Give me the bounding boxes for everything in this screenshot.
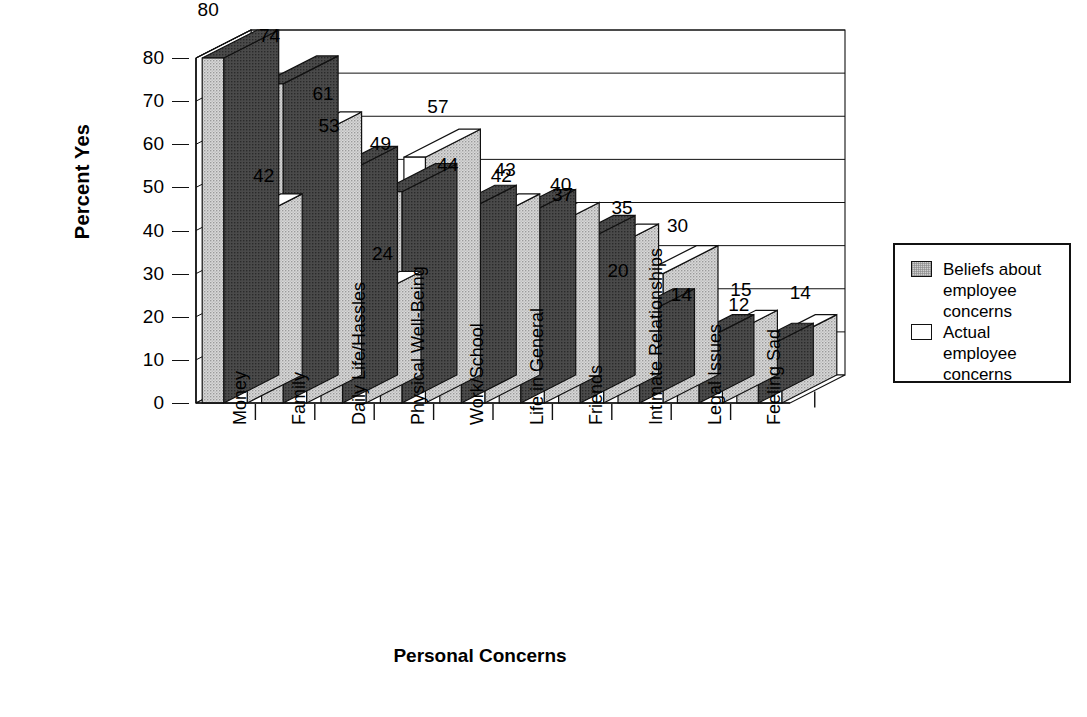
x-category-label: Feeling Sad: [765, 329, 783, 425]
chart-legend: Beliefs about employee concerns Actual e…: [893, 243, 1071, 383]
x-category-label: Work/School: [468, 323, 486, 425]
value-label-beliefs: 43: [485, 160, 525, 179]
value-label-actual: 14: [780, 283, 820, 302]
value-label-beliefs: 74: [250, 26, 290, 45]
legend-label-actual-line1: Actual: [943, 323, 990, 342]
legend-label-actual: Actual employee concerns: [943, 322, 1017, 385]
value-label-actual: 30: [658, 216, 698, 235]
y-tick-mark: [172, 58, 189, 59]
legend-label-actual-line3: concerns: [943, 365, 1012, 384]
x-category-label: Daily Life/Hassles: [350, 282, 368, 425]
x-category-label: Family: [290, 372, 308, 425]
y-tick-label: 10: [118, 350, 164, 369]
bar-beliefs: [202, 30, 279, 403]
y-tick-mark: [172, 403, 189, 404]
value-label-beliefs: 80: [188, 0, 228, 19]
y-tick-mark: [172, 144, 189, 145]
x-category-label: Life in General: [528, 308, 546, 425]
x-category-label: Legal Issues: [706, 324, 724, 425]
y-tick-label: 30: [118, 264, 164, 283]
legend-label-beliefs-line3: concerns: [943, 302, 1012, 321]
legend-label-actual-line2: employee: [943, 344, 1017, 363]
legend-label-beliefs: Beliefs about employee concerns: [943, 259, 1041, 322]
y-tick-label: 60: [118, 134, 164, 153]
y-tick-mark: [172, 187, 189, 188]
value-label-actual: 24: [363, 244, 403, 263]
legend-swatch-actual-icon: [911, 324, 932, 340]
value-label-beliefs: 44: [428, 155, 468, 174]
y-tick-label: 40: [118, 221, 164, 240]
value-label-beliefs: 49: [360, 134, 400, 153]
legend-item-actual[interactable]: Actual employee concerns: [911, 322, 1017, 385]
y-tick-mark: [172, 274, 189, 275]
y-tick-mark: [172, 101, 189, 102]
y-tick-label: 50: [118, 177, 164, 196]
legend-label-beliefs-line1: Beliefs about: [943, 260, 1041, 279]
x-category-label: Intimate Relationships: [647, 248, 665, 425]
value-label-actual: 42: [244, 166, 284, 185]
legend-item-beliefs[interactable]: Beliefs about employee concerns: [911, 259, 1041, 322]
x-category-label: Money: [231, 371, 249, 425]
value-label-actual: 61: [303, 84, 343, 103]
value-label-beliefs: 14: [661, 285, 701, 304]
y-tick-mark: [172, 317, 189, 318]
legend-swatch-beliefs-icon: [911, 261, 932, 277]
y-tick-label: 70: [118, 91, 164, 110]
value-label-beliefs: 12: [719, 295, 759, 314]
y-tick-label: 0: [118, 393, 164, 412]
x-category-label: Friends: [587, 365, 605, 425]
y-tick-mark: [172, 360, 189, 361]
legend-label-beliefs-line2: employee: [943, 281, 1017, 300]
y-tick-mark: [172, 231, 189, 232]
chart-figure: Percent Yes Personal Concerns 8070605040…: [0, 0, 1087, 717]
x-category-label: Physical Well-Being: [409, 266, 427, 425]
y-tick-label: 80: [118, 48, 164, 67]
value-label-beliefs: 37: [543, 185, 583, 204]
value-label-actual: 57: [418, 97, 458, 116]
value-label-actual: 35: [602, 198, 642, 217]
value-label-beliefs: 20: [598, 261, 638, 280]
value-label-beliefs: 53: [309, 116, 349, 135]
y-tick-label: 20: [118, 307, 164, 326]
